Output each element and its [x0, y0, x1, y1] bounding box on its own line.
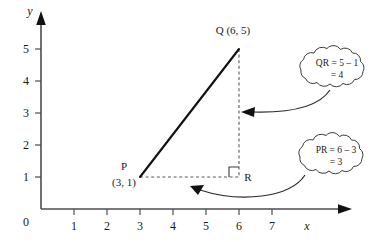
y-axis-tick-labels: 1 2 3 4 5: [23, 42, 29, 184]
x-tick-label-2: 2: [104, 219, 110, 233]
x-tick-label-6: 6: [236, 219, 242, 233]
y-tick-label-3: 3: [23, 106, 29, 120]
pr-callout: PR = 6 – 3 = 3: [190, 133, 363, 197]
pr-callout-line2: = 3: [330, 157, 343, 167]
point-coords-p: (3, 1): [112, 176, 136, 189]
y-tick-label-5: 5: [23, 42, 29, 56]
x-tick-label-7: 7: [269, 219, 275, 233]
axes-group: [36, 11, 352, 214]
y-axis-arrowhead: [36, 11, 46, 25]
coordinate-geometry-figure: 1 2 3 4 5 6 7 1 2 3 4 5 0 y x: [0, 0, 373, 242]
segment-pq: [140, 49, 239, 177]
point-label-p: P: [121, 160, 127, 172]
x-axis-arrowhead: [338, 204, 352, 214]
x-tick-label-4: 4: [170, 219, 176, 233]
qr-callout-line2: = 4: [331, 70, 344, 80]
point-label-r: R: [244, 171, 252, 183]
pr-callout-pointer: [200, 175, 305, 197]
x-tick-label-5: 5: [203, 219, 209, 233]
qr-callout-pointer: [252, 90, 330, 112]
qr-callout-arrowhead: [241, 107, 255, 117]
qr-callout: QR = 5 – 1 = 4: [241, 46, 364, 117]
x-axis-ticks: [74, 209, 272, 215]
qr-callout-line1: QR = 5 – 1: [316, 58, 359, 68]
x-tick-label-3: 3: [137, 219, 143, 233]
y-tick-label-4: 4: [23, 74, 29, 88]
y-tick-label-2: 2: [23, 138, 29, 152]
y-axis-ticks: [35, 49, 41, 177]
pr-callout-line1: PR = 6 – 3: [316, 145, 357, 155]
origin-label: 0: [23, 215, 29, 229]
right-angle-marker: [229, 167, 239, 177]
x-tick-label-1: 1: [71, 219, 77, 233]
point-label-q: Q (6, 5): [216, 24, 251, 37]
y-tick-label-1: 1: [23, 170, 29, 184]
x-axis-tick-labels: 1 2 3 4 5 6 7: [71, 219, 275, 233]
x-axis-label: x: [303, 219, 310, 233]
y-axis-label: y: [26, 4, 33, 18]
